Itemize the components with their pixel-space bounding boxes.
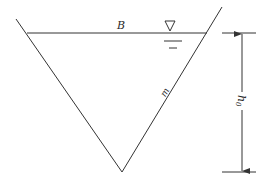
triangular-channel-diagram: B m h0 <box>0 0 271 181</box>
depth-dimension: h0 <box>222 33 256 172</box>
top-width-label: B <box>116 19 125 32</box>
left-channel-wall <box>16 19 122 172</box>
water-level-triangle-icon <box>164 21 182 48</box>
side-slope-label: m <box>159 86 172 98</box>
right-channel-wall <box>122 7 222 172</box>
